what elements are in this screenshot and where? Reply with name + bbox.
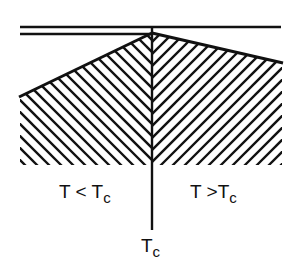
left-boundary bbox=[19, 33, 152, 97]
label-below-tc-main: T < T bbox=[59, 181, 103, 202]
label-below-tc: T < Tc bbox=[59, 182, 111, 205]
label-tc-main: T bbox=[141, 235, 153, 256]
label-above-tc-sub: c bbox=[229, 189, 237, 206]
label-tc-axis: Tc bbox=[141, 236, 160, 259]
label-tc-sub: c bbox=[153, 243, 161, 260]
label-above-tc: T >Tc bbox=[190, 182, 237, 205]
label-above-tc-main: T >T bbox=[190, 181, 229, 202]
phase-diagram bbox=[0, 0, 298, 273]
label-below-tc-sub: c bbox=[103, 189, 111, 206]
